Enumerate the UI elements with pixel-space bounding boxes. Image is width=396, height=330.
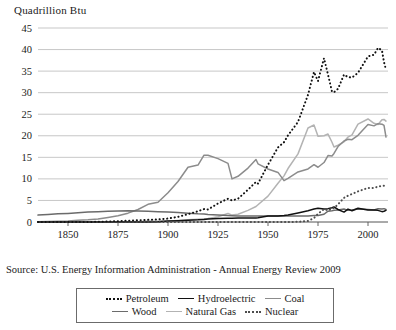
series-line-petroleum: [38, 48, 386, 222]
wood-line-swatch-icon: [112, 311, 128, 312]
svg-text:1950: 1950: [258, 229, 279, 240]
svg-text:20: 20: [22, 130, 33, 141]
legend-label-coal: Coal: [285, 292, 305, 305]
legend-label-hydroelectric: Hydroelectric: [198, 292, 256, 305]
nuclear-line-swatch-icon: [245, 311, 261, 313]
svg-text:5: 5: [27, 195, 32, 206]
legend-item-natural-gas[interactable]: Natural Gas: [166, 305, 236, 318]
svg-text:2000: 2000: [358, 229, 379, 240]
legend-row-1: Petroleum Hydroelectric Coal: [83, 292, 327, 305]
legend-item-coal[interactable]: Coal: [265, 292, 305, 305]
chart-plot-area: 0510152025303540451850187519001925195019…: [0, 20, 396, 252]
legend-item-nuclear[interactable]: Nuclear: [245, 305, 298, 318]
svg-text:1850: 1850: [58, 229, 79, 240]
y-axis-title: Quadrillion Btu: [14, 4, 86, 16]
natural-gas-line-swatch-icon: [166, 311, 182, 312]
svg-text:1900: 1900: [158, 229, 179, 240]
legend-item-hydroelectric[interactable]: Hydroelectric: [178, 292, 256, 305]
legend-label-wood: Wood: [132, 305, 157, 318]
legend-item-wood[interactable]: Wood: [112, 305, 157, 318]
svg-text:1975: 1975: [308, 229, 329, 240]
legend-label-petroleum: Petroleum: [126, 292, 169, 305]
series-line-wood: [38, 209, 386, 216]
legend-label-nuclear: Nuclear: [265, 305, 298, 318]
legend-label-natural-gas: Natural Gas: [186, 305, 236, 318]
energy-consumption-line-chart: 0510152025303540451850187519001925195019…: [0, 20, 396, 252]
svg-text:30: 30: [22, 87, 33, 98]
hydroelectric-line-swatch-icon: [178, 298, 194, 299]
chart-page: Quadrillion Btu 051015202530354045185018…: [0, 0, 396, 330]
svg-text:45: 45: [22, 23, 33, 34]
svg-text:25: 25: [22, 109, 33, 120]
svg-text:15: 15: [22, 152, 33, 163]
chart-legend: Petroleum Hydroelectric Coal Wood Natura…: [76, 288, 334, 323]
svg-text:1875: 1875: [108, 229, 129, 240]
petroleum-line-swatch-icon: [106, 298, 122, 300]
svg-text:40: 40: [22, 44, 33, 55]
svg-text:1925: 1925: [208, 229, 229, 240]
legend-item-petroleum[interactable]: Petroleum: [106, 292, 169, 305]
series-line-nuclear: [38, 186, 386, 222]
coal-line-swatch-icon: [265, 298, 281, 299]
svg-text:35: 35: [22, 66, 33, 77]
legend-row-2: Wood Natural Gas Nuclear: [83, 305, 327, 318]
svg-text:0: 0: [27, 217, 32, 228]
source-note: Source: U.S. Energy Information Administ…: [6, 264, 341, 275]
svg-text:10: 10: [22, 173, 33, 184]
